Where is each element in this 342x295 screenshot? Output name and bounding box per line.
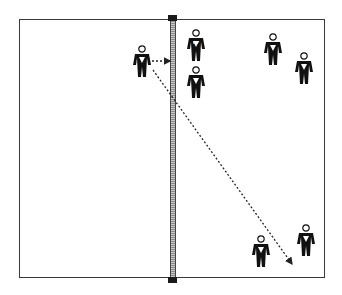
player-back-right-1 — [263, 33, 283, 65]
player-icon — [186, 66, 206, 98]
player-label: RF — [186, 40, 206, 45]
player-icon — [263, 33, 283, 65]
court-diagram: RF — [0, 0, 342, 295]
player-back-right-low — [296, 224, 316, 256]
player-icon — [132, 45, 152, 77]
player-front-middle — [186, 66, 206, 98]
player-front-right: RF — [186, 29, 206, 61]
player-back-right-2 — [294, 52, 314, 84]
player-icon — [186, 29, 206, 61]
long-diagonal-arrow — [153, 70, 292, 264]
player-icon — [296, 224, 316, 256]
player-icon — [294, 52, 314, 84]
play-arrows — [0, 0, 342, 295]
player-back-left-low — [251, 235, 271, 267]
player-icon — [251, 235, 271, 267]
player-attacker — [132, 45, 152, 77]
